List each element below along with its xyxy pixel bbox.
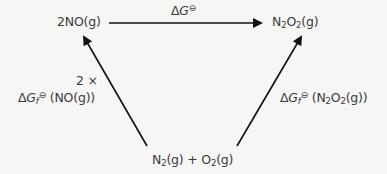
g-var: G [26,90,36,105]
arg-open: (N [308,90,326,105]
state2: (g) [216,152,233,167]
label-left-dgf: ΔGf⊖ (NO(g)) [18,92,95,105]
node-n2o2: N2O2(g) [272,16,318,29]
species: NO [65,14,84,29]
standard-state-icon: ⊖ [301,90,308,100]
state: (g) [84,14,101,29]
arg-close: (g)) [346,90,368,105]
node-n2-o2: N2(g) + O2(g) [152,154,233,167]
g-var: G [288,90,298,105]
label-right-dgf: ΔGf⊖ (N2O2(g)) [280,92,367,105]
el2: O [201,152,211,167]
state1: (g) [166,152,183,167]
arg: (NO(g)) [46,90,95,105]
label-delta-g: ΔG⊖ [171,5,196,18]
plus: + [187,152,197,167]
el2: O [286,14,296,29]
coef: 2 [57,14,65,29]
el1: N [152,152,161,167]
node-2no: 2NO(g) [57,16,101,29]
standard-state-icon: ⊖ [189,3,196,13]
state: (g) [301,14,318,29]
label-left-multiplier: 2 × [76,75,98,88]
el1: N [272,14,281,29]
standard-state-icon: ⊖ [39,90,46,100]
g-var: G [179,3,189,18]
